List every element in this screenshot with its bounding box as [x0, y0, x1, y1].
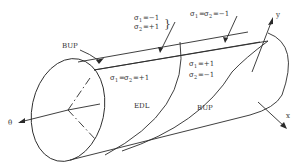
edl-boundary-curve	[105, 42, 181, 155]
edl-label: EDL	[134, 102, 150, 110]
leader-arrow-icon	[158, 47, 163, 53]
cylinder-diagram: θ y x BUP EDL BUP σ 1 =−1 σ 2 =+1 } σ 1 …	[0, 0, 301, 166]
bup-upper-label: BUP	[62, 42, 78, 50]
bup-boundary-curve	[122, 72, 232, 151]
theta-arrow-icon	[18, 118, 25, 123]
svg-text:2: 2	[129, 77, 132, 83]
y-axis	[252, 20, 272, 72]
svg-text:2: 2	[139, 26, 142, 32]
svg-text:=+1: =+1	[133, 74, 149, 82]
radial-axis-right	[68, 104, 100, 110]
svg-text:1: 1	[115, 77, 118, 83]
bottom-generator-line	[70, 115, 250, 160]
svg-text:2: 2	[209, 13, 212, 19]
annotation-top-right: σ 1 = σ 2 =−1	[190, 10, 229, 19]
bup-leader-line	[80, 50, 98, 60]
svg-text:=+1: =+1	[143, 23, 159, 31]
annotation-middle-left: σ 1 = σ 2 =+1	[110, 74, 149, 83]
y-label: y	[275, 11, 280, 19]
radial-axis-down	[68, 110, 96, 140]
svg-text:1: 1	[194, 63, 197, 69]
top-right-leader	[226, 16, 237, 40]
svg-text:=−1: =−1	[213, 10, 229, 18]
svg-text:1: 1	[139, 17, 142, 23]
theta-label: θ	[8, 119, 12, 127]
cylinder-far-end-arc	[250, 33, 288, 115]
annotation-top-left: σ 1 =−1 σ 2 =+1 }	[134, 14, 171, 32]
svg-text:1: 1	[195, 13, 198, 19]
leader-arrow-icon	[223, 37, 228, 43]
svg-text:=−1: =−1	[198, 71, 214, 79]
bup-lower-label: BUP	[197, 104, 213, 112]
annotation-middle-right: σ 1 =+1 σ 2 =−1	[189, 60, 214, 80]
radial-axis-up	[68, 78, 90, 110]
svg-text:}: }	[164, 17, 171, 30]
svg-text:2: 2	[194, 74, 197, 80]
svg-text:=−1: =−1	[143, 14, 159, 22]
y-arrow-icon	[268, 17, 273, 25]
svg-text:=+1: =+1	[198, 60, 214, 68]
x-label: x	[286, 112, 290, 120]
theta-axis	[20, 110, 68, 122]
